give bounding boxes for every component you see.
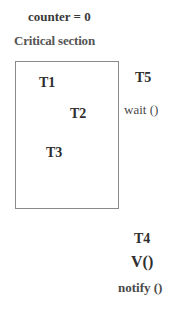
thread-t2: T2: [70, 106, 86, 122]
counter-label: counter = 0: [28, 9, 91, 25]
v-operation: V(): [131, 253, 153, 271]
critical-section-box: [15, 61, 119, 209]
critical-section-title: Critical section: [14, 33, 95, 49]
wait-call: wait (): [124, 102, 158, 118]
notify-call: notify (): [118, 280, 162, 296]
thread-t3: T3: [46, 145, 62, 161]
thread-t4: T4: [134, 231, 150, 247]
thread-t1: T1: [39, 75, 55, 91]
thread-t5: T5: [135, 70, 151, 86]
